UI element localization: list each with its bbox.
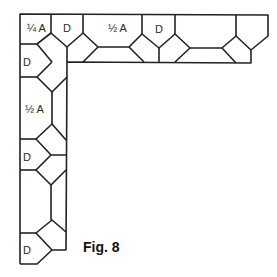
diagram-lines — [20, 14, 268, 264]
outer-outline — [20, 14, 268, 264]
label-top-quarter-a: ¼ A — [27, 22, 47, 34]
label-left-half-a: ½ A — [25, 103, 45, 115]
figure-caption: Fig. 8 — [83, 239, 120, 255]
label-left-d3: D — [23, 244, 31, 256]
label-left-d2: D — [23, 151, 31, 163]
piece-labels: ¼ A D ½ A D D ½ A D D — [23, 22, 163, 256]
label-top-d2: D — [155, 23, 163, 35]
corner-border-diagram: ¼ A D ½ A D D ½ A D D Fig. 8 — [0, 0, 277, 277]
label-top-d1: D — [63, 22, 71, 34]
figure-canvas: ¼ A D ½ A D D ½ A D D Fig. 8 — [0, 0, 277, 277]
label-left-d1: D — [23, 56, 31, 68]
label-top-half-a: ½ A — [108, 22, 128, 34]
